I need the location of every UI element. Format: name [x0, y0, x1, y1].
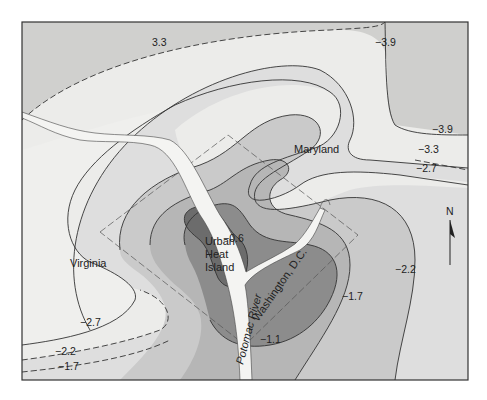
label-uhi-3: Island: [205, 261, 234, 273]
map-canvas: Maryland Virginia Urban Heat Island Wash…: [0, 0, 487, 400]
contour-label-39-right: −3.9: [432, 123, 453, 135]
contour-label-39-top: −3.9: [375, 36, 396, 48]
contour-label-33-right: −3.3: [418, 143, 439, 155]
contour-label-22-right: −2.2: [395, 263, 416, 275]
label-maryland: Maryland: [294, 143, 339, 155]
contour-label-27-right: −2.7: [416, 162, 437, 174]
zone-northeast: [385, 22, 468, 135]
contour-label-22-left: −2.2: [55, 345, 76, 357]
contour-label-17-right: −1.7: [342, 290, 363, 302]
label-virginia: Virginia: [70, 257, 107, 269]
north-label: N: [446, 205, 454, 217]
contour-label-33-top: 3.3: [152, 36, 167, 48]
label-uhi-2: Heat: [205, 248, 228, 260]
contour-label-06: −0.6: [223, 232, 244, 244]
contour-label-17-left: −1.7: [58, 360, 79, 372]
contour-label-27-left: −2.7: [80, 316, 101, 328]
heat-island-map: Maryland Virginia Urban Heat Island Wash…: [0, 0, 487, 400]
contour-label-11: −1.1: [260, 333, 281, 345]
